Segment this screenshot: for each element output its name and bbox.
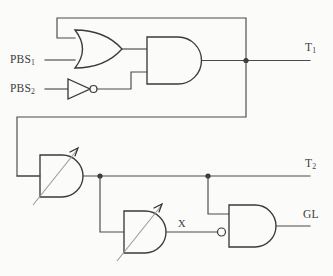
not-gate-body — [68, 79, 90, 99]
and-delay-gate-1-body — [40, 155, 83, 197]
input-label-pbs1: PBS1 — [10, 53, 35, 65]
and-delay-gate-2-body — [124, 211, 166, 253]
not-gate-bubble — [90, 86, 97, 93]
and-delay-gate-1-adjust-arrow — [70, 148, 78, 156]
output-label-t2: T2 — [305, 157, 316, 169]
or-gate-body — [75, 30, 122, 68]
output-label-gl: GL — [303, 208, 319, 220]
and-gate-1-body — [147, 37, 201, 84]
and-delay-gate-2-adjust-arrow — [154, 204, 162, 212]
wire-t2-down-to-nand — [208, 176, 229, 214]
wire-t2-down-to-delay2 — [100, 176, 124, 232]
input-label-pbs2: PBS2 — [10, 82, 35, 94]
circuit-svg — [0, 0, 333, 276]
output-label-t1: T1 — [305, 41, 316, 53]
circuit-diagram: PBS1 PBS2 T1 T2 GL X — [0, 0, 333, 276]
nand-gate-body — [229, 205, 276, 247]
nand-gate-input-bubble — [218, 228, 226, 236]
signal-label-x: X — [178, 218, 186, 229]
wire-not-to-and1 — [97, 72, 147, 89]
